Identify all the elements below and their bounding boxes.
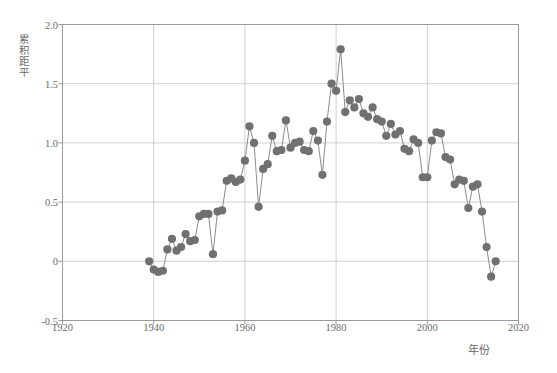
x-tick-label: 1920 — [52, 322, 73, 333]
x-tick-label: 1960 — [234, 322, 255, 333]
x-tick-label: 2000 — [417, 322, 438, 333]
x-axis-tick-labels: 192019401960198020002020 — [0, 0, 557, 373]
chart-figure: 累积距平 年份 2.01.51.00.50-0.5 19201940196019… — [0, 0, 557, 373]
x-tick-label: 1940 — [143, 322, 164, 333]
x-tick-label: 1980 — [326, 322, 347, 333]
x-tick-label: 2020 — [508, 322, 529, 333]
